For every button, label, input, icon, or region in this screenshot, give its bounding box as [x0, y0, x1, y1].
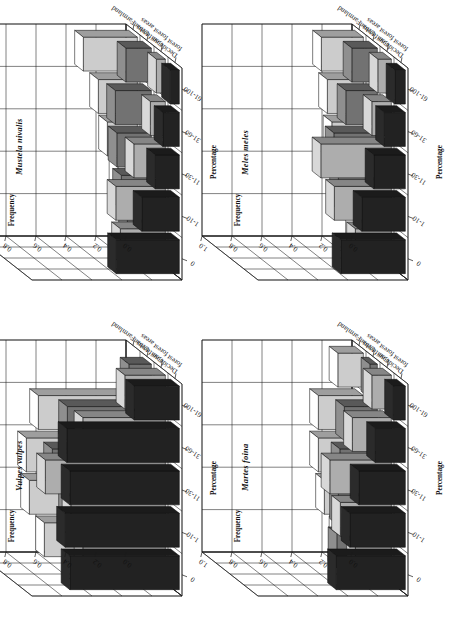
percentage-category-label: 31-60 [409, 128, 428, 144]
habitat-axis-label: Farmland [336, 4, 363, 27]
chart-canvas-meles-meles: 1.00.80.60.40.20.001-1011-3031-6061-100D… [226, 0, 452, 316]
bar [332, 233, 405, 274]
species-title: Mustela nivalis [14, 118, 24, 175]
percentage-category-label: 0 [189, 259, 197, 268]
frequency-tick-label: 0.6 [257, 557, 269, 569]
bar [329, 346, 363, 387]
percentage-category-label: 1-10 [185, 530, 201, 544]
percentage-category-label: 61-100 [182, 400, 204, 418]
bar [353, 191, 405, 232]
figure-sheet: 1.00.80.60.40.20.001-1011-3031-6061-100D… [0, 0, 453, 633]
percentage-axis-title: Percentage [210, 145, 218, 179]
percentage-category-label: 61-100 [408, 400, 430, 418]
frequency-tick-label: 0.8 [1, 241, 13, 253]
svg-text:Farmland: Farmland [336, 320, 363, 343]
chart-panel-mustela-nivalis: 1.00.80.60.40.20.001-1011-3031-6061-100D… [0, 0, 226, 316]
frequency-axis-title: Frequency [8, 509, 16, 542]
percentage-category-label: 31-60 [183, 444, 202, 460]
bar [328, 549, 406, 590]
frequency-tick-label: 0.6 [31, 557, 43, 569]
bar [385, 379, 406, 420]
percentage-axis-title: Percentage [210, 461, 218, 495]
percentage-axis-title: Percentage [436, 461, 444, 495]
bar [386, 63, 405, 104]
frequency-tick-label: 0.4 [287, 557, 299, 569]
bar [341, 507, 405, 548]
chart-canvas-martes-foina: 1.00.80.60.40.20.001-1011-3031-6061-100D… [226, 316, 452, 632]
chart-canvas-mustela-nivalis: 1.00.80.60.40.20.001-1011-3031-6061-100D… [0, 0, 226, 316]
species-title: Vulpes vulpes [14, 440, 24, 491]
frequency-tick-label: 0.2 [91, 241, 103, 253]
chart-panel-meles-meles: 1.00.80.60.40.20.001-1011-3031-6061-100D… [226, 0, 452, 316]
bar [57, 507, 180, 548]
percentage-category-label: 61-100 [408, 84, 430, 102]
bar [367, 422, 406, 463]
habitat-axis-label: Farmland [110, 4, 137, 27]
chart-plot-area: 1.00.80.60.40.20.001-1011-3031-6061-100D… [226, 316, 452, 632]
frequency-tick-label: 0.6 [31, 241, 43, 253]
svg-text:Farmland: Farmland [336, 4, 363, 27]
bar [61, 464, 179, 505]
percentage-category-label: 0 [415, 575, 423, 584]
frequency-tick-label: 0.8 [227, 557, 239, 569]
bar [147, 148, 180, 189]
chart-panel-vulpes-vulpes: 1.00.80.60.40.20.001-1011-3031-6061-100D… [0, 316, 226, 632]
frequency-axis-title: Frequency [234, 509, 242, 542]
percentage-category-label: 31-60 [409, 444, 428, 460]
frequency-tick-label: 0.4 [287, 241, 299, 253]
bar [376, 106, 406, 147]
bar [350, 464, 405, 505]
habitat-axis-label: Farmland [336, 320, 363, 343]
svg-text:Farmland: Farmland [110, 320, 137, 343]
percentage-category-label: 1-10 [411, 530, 427, 544]
bar [108, 233, 180, 274]
bar [58, 422, 179, 463]
bar [126, 379, 180, 420]
frequency-tick-label: 0.8 [1, 557, 13, 569]
frequency-axis-title: Frequency [234, 193, 242, 226]
svg-text:Farmland: Farmland [110, 4, 137, 27]
chart-canvas-vulpes-vulpes: 1.00.80.60.40.20.001-1011-3031-6061-100D… [0, 316, 226, 632]
percentage-category-label: 0 [189, 575, 197, 584]
frequency-tick-label: 0.2 [317, 241, 329, 253]
bar [117, 41, 151, 82]
chart-plot-area: 1.00.80.60.40.20.001-1011-3031-6061-100D… [226, 0, 452, 316]
percentage-axis-title: Percentage [436, 145, 444, 179]
bar [154, 106, 179, 147]
species-title: Meles meles [240, 130, 250, 175]
frequency-tick-label: 0.4 [61, 241, 73, 253]
chart-plot-area: 1.00.80.60.40.20.001-1011-3031-6061-100D… [0, 0, 226, 316]
percentage-category-label: 11-30 [183, 170, 201, 186]
percentage-category-label: 0 [415, 259, 423, 268]
species-title: Martes foina [240, 443, 250, 491]
frequency-tick-label: 0.8 [227, 241, 239, 253]
percentage-category-label: 61-100 [182, 84, 204, 102]
bar [61, 549, 179, 590]
frequency-axis-title: Frequency [8, 193, 16, 226]
percentage-category-label: 1-10 [411, 214, 427, 228]
bar [133, 191, 179, 232]
bar [162, 63, 180, 104]
percentage-category-label: 31-60 [183, 128, 202, 144]
percentage-category-label: 11-30 [409, 486, 427, 502]
bar [365, 148, 405, 189]
chart-panel-martes-foina: 1.00.80.60.40.20.001-1011-3031-6061-100D… [226, 316, 452, 632]
frequency-tick-label: 0.6 [257, 241, 269, 253]
habitat-axis-label: Farmland [110, 320, 137, 343]
chart-plot-area: 1.00.80.60.40.20.001-1011-3031-6061-100D… [0, 316, 226, 632]
percentage-category-label: 1-10 [185, 214, 201, 228]
percentage-category-label: 11-30 [409, 170, 427, 186]
percentage-category-label: 11-30 [183, 486, 201, 502]
